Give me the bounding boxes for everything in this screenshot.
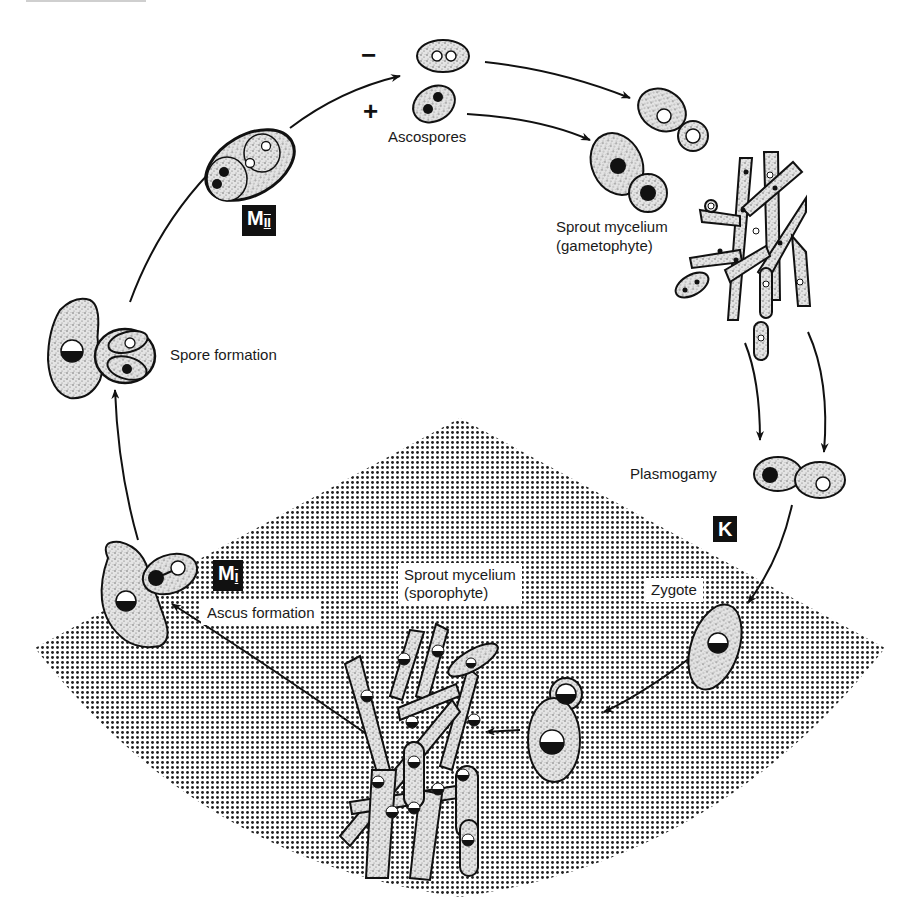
haploid-budding-cell-plus [581, 124, 667, 212]
meiosis-one-badge: MI [213, 560, 243, 591]
sporophyte-label-line1: Sprout mycelium [404, 566, 516, 584]
haploid-budding-cell-minus [630, 80, 708, 151]
karyogamy-badge: K [713, 516, 737, 542]
ascospore-plus [406, 78, 461, 129]
minus-mating-type-sign: − [361, 42, 376, 68]
plus-mating-type-sign: + [363, 98, 378, 124]
karyogamy-badge-text: K [718, 518, 732, 540]
zygote-label: Zygote [645, 578, 703, 602]
plasmogamy-cell [754, 457, 845, 498]
meiosis-two-badge: MII [242, 205, 276, 236]
spore-formation-cell [48, 299, 155, 398]
life-cycle-diagram: − + Ascospores Sprout mycelium (gametoph… [0, 0, 915, 911]
spore-formation-label: Spore formation [170, 346, 277, 364]
plasmogamy-label: Plasmogamy [630, 465, 717, 483]
meiosis-one-badge-sub: I [235, 570, 239, 585]
sporophyte-label-line2: (sporophyte) [404, 584, 516, 602]
meiosis-two-badge-main: M [247, 207, 264, 229]
ascospore-minus [417, 40, 469, 72]
ascospores-label: Ascospores [388, 128, 466, 146]
gametophyte-mycelium [671, 152, 810, 360]
ascus-four-spores [193, 115, 306, 215]
meiosis-one-badge-main: M [218, 562, 235, 584]
gametophyte-label-line2: (gametophyte) [556, 237, 653, 255]
gametophyte-label-line1: Sprout mycelium [556, 218, 668, 236]
ascus-formation-label: Ascus formation [201, 601, 321, 625]
meiosis-two-badge-sub: II [264, 215, 271, 230]
sporophyte-label: Sprout mycelium (sporophyte) [398, 563, 522, 605]
